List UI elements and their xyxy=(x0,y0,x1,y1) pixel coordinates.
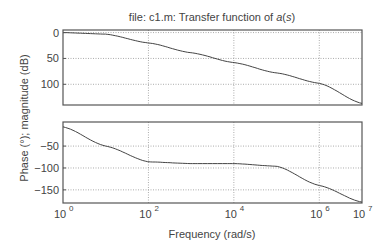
phase-grid xyxy=(63,122,362,203)
svg-text:−100: −100 xyxy=(34,162,59,174)
svg-text:0: 0 xyxy=(53,27,59,39)
magnitude-grid xyxy=(63,30,362,105)
svg-text:10: 10 xyxy=(225,208,237,220)
phase-frame xyxy=(63,122,362,203)
x-axis-ticks: 100102104106107 xyxy=(54,204,373,220)
chart-title: file: c1.m: Transfer function of a(s) xyxy=(129,11,295,23)
svg-text:−150: −150 xyxy=(34,184,59,196)
magnitude-curve xyxy=(63,33,362,104)
svg-text:50: 50 xyxy=(47,52,59,64)
svg-text:10: 10 xyxy=(139,208,151,220)
magnitude-y-ticks: 100500 xyxy=(41,27,66,91)
magnitude-frame xyxy=(63,30,362,105)
svg-text:4: 4 xyxy=(240,204,245,213)
phase-y-ticks: −50−100−150 xyxy=(34,140,66,196)
svg-text:10: 10 xyxy=(310,208,322,220)
svg-text:0: 0 xyxy=(69,204,74,213)
phase-curve xyxy=(63,127,362,202)
svg-text:2: 2 xyxy=(154,204,159,213)
svg-text:6: 6 xyxy=(325,204,330,213)
svg-text:10: 10 xyxy=(54,208,66,220)
svg-text:7: 7 xyxy=(368,204,373,213)
svg-text:−50: −50 xyxy=(40,140,59,152)
bode-plot: file: c1.m: Transfer function of a(s) Ph… xyxy=(0,0,385,245)
magnitude-panel: 100500 xyxy=(41,27,362,105)
svg-text:10: 10 xyxy=(353,208,365,220)
phase-panel: −50−100−150 xyxy=(34,122,362,203)
y-axis-label: Phase (°); magnitude (dB) xyxy=(18,54,30,181)
svg-text:100: 100 xyxy=(41,78,59,90)
x-axis-label: Frequency (rad/s) xyxy=(169,228,256,240)
